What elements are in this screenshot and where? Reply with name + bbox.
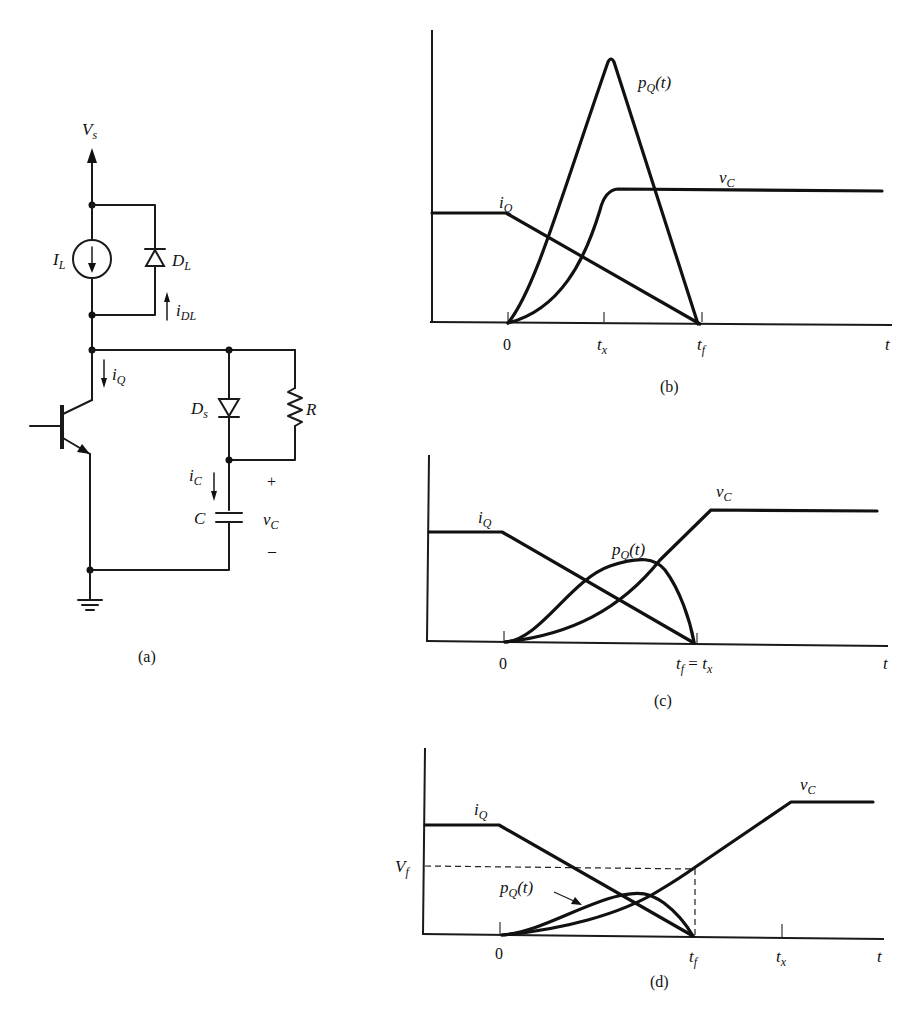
tick-label-tf: tf [697,335,707,357]
minus-sign: – [267,542,277,559]
label-vc: vC [800,775,817,797]
tick-label-tx: tx [597,335,608,357]
series-pq [502,893,693,936]
label-pq: pQ(t) [637,73,672,95]
series-vc [508,189,882,323]
x-axis-label: t [883,654,889,673]
current-source-arrow-icon [88,263,96,273]
cap-voltage-label: vC [263,510,280,532]
supply-arrow-icon [87,148,97,163]
idl-arrow-icon [164,292,170,302]
circuit-diagram: Vs DL iDL IL iQ [30,120,317,666]
chart-b: iQ vC pQ(t) 0 tx tf t (b) [430,30,892,396]
figure-canvas: Vs DL iDL IL iQ [0,0,917,1026]
load-current-label: IL [52,250,66,272]
diode-current-label: iDL [176,301,196,323]
x-axis-label: t [877,947,883,966]
series-vc [505,510,877,642]
chart-d: iQ vC pQ(t) Vf 0 tf tx t (d) [395,748,884,991]
resistor-icon [288,388,302,426]
wire-r-bottom [229,426,295,460]
capacitor-icon [216,513,242,522]
node-snubber-mid [226,457,233,464]
node-mid [89,312,96,319]
y-axis [423,748,425,934]
x-axis [426,641,888,646]
ground-icon [78,570,102,610]
tick-label-0: 0 [495,945,503,962]
transistor-icon [30,350,92,570]
series-pq [508,59,698,324]
x-axis [430,322,892,325]
tick-label-0: 0 [503,336,511,353]
ic-arrow-icon [211,491,217,501]
vf-reference-line [425,866,695,935]
tick-label-tx: tx [776,947,787,969]
caption-c: (c) [654,692,672,710]
tick-label-tf: tf [689,947,699,969]
y-axis [427,455,429,641]
x-axis-label: t [885,335,891,354]
load-diode-label: DL [171,251,191,273]
pq-pointer-arrow [554,892,576,902]
series-iq [432,213,700,324]
wire-dl-bottom [92,266,155,315]
x-axis [422,934,884,939]
iq-arrow-icon [101,378,107,388]
tick-label-0: 0 [499,655,507,672]
caption-b: (b) [660,378,679,396]
snubber-diode-icon [219,399,239,417]
label-vc: vC [716,482,733,504]
tick-label-tf-eq-tx: tf = tx [676,654,713,676]
label-vf: Vf [395,857,410,879]
label-vc: vC [719,168,736,190]
series-iq [429,532,694,643]
label-iq: iQ [478,508,492,530]
caption-d: (d) [650,973,669,991]
resistor-label: R [305,400,317,419]
plus-sign: + [267,473,276,490]
supply-label: Vs [82,120,97,142]
switch-current-label: iQ [112,365,126,387]
wire-ground-bus [90,522,229,570]
label-iq: iQ [474,800,488,822]
chart-c: iQ vC pQ(t) 0 tf = tx t (c) [426,455,889,710]
snubber-diode-label: Ds [190,399,208,421]
series-pq [505,560,694,642]
load-diode-icon [145,249,165,266]
label-pq: pQ(t) [499,878,534,900]
cap-current-label: iC [189,466,203,488]
label-pq: pQ(t) [611,540,646,562]
caption-a: (a) [138,648,156,666]
capacitor-label: C [194,509,206,528]
label-iq: iQ [499,193,513,215]
